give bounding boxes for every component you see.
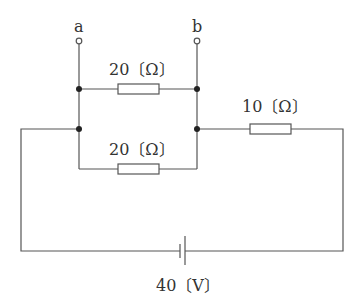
battery-label: 40〔V〕 [156,276,220,295]
terminal-a: a [74,17,84,89]
terminal-b: b [192,17,202,89]
junction-mid-right [194,126,200,132]
resistor-series-branch: 10〔Ω〕 [185,97,343,251]
terminal-a-label: a [74,17,84,36]
battery: 40〔V〕 [156,236,220,295]
resistor-bottom-branch: 20〔Ω〕 [79,140,197,174]
resistor-series [250,124,291,134]
resistor-top-branch: 20〔Ω〕 [79,60,197,94]
resistor-bottom [118,164,159,174]
junction-top-right [194,86,200,92]
junction-top-left [76,86,82,92]
junction-mid-left [76,126,82,132]
terminal-b-label: b [192,17,202,36]
resistor-bottom-label: 20〔Ω〕 [109,140,175,159]
resistor-series-label: 10〔Ω〕 [242,97,308,116]
resistor-top-label: 20〔Ω〕 [109,60,175,79]
resistor-top [118,84,159,94]
circuit-diagram: a b 20〔Ω〕 20〔Ω〕 10〔Ω〕 40〔V〕 [0,0,361,303]
